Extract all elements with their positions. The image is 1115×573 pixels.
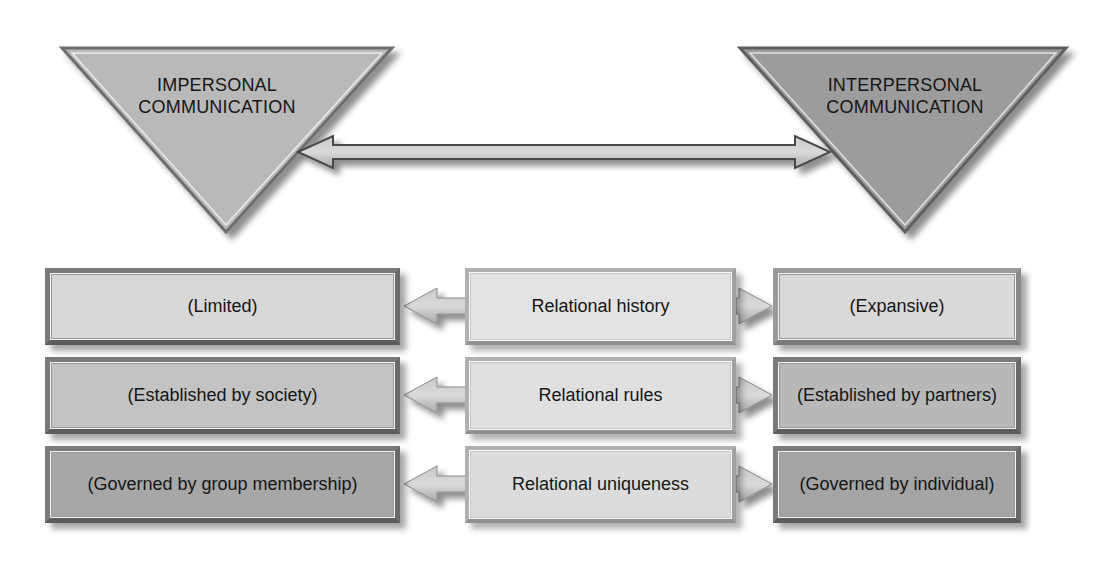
row-2-dimension-box: Relational rules: [465, 357, 736, 434]
row-3-interpersonal-box: (Governed by individual): [773, 446, 1021, 523]
impersonal-label-line2: COMMUNICATION: [112, 96, 322, 118]
row-1-interpersonal-text: (Expansive): [849, 296, 944, 317]
arrow-right-icon: [736, 377, 772, 413]
row-2-interpersonal-text: (Established by partners): [797, 385, 997, 406]
row-2-impersonal-box: (Established by society): [45, 357, 400, 434]
continuum-double-arrow-icon: [298, 136, 830, 168]
row-3-impersonal-box: (Governed by group membership): [45, 446, 400, 523]
row-3-interpersonal-text: (Governed by individual): [799, 474, 994, 495]
arrow-left-icon: [404, 377, 466, 413]
row-2-dimension-text: Relational rules: [538, 385, 662, 406]
row-1-dimension-text: Relational history: [531, 296, 669, 317]
impersonal-label-line1: IMPERSONAL: [112, 74, 322, 96]
arrow-right-icon: [736, 466, 772, 502]
arrow-left-icon: [404, 288, 466, 324]
row-1-impersonal-text: (Limited): [187, 296, 257, 317]
row-2-impersonal-text: (Established by society): [127, 385, 317, 406]
row-2-interpersonal-box: (Established by partners): [773, 357, 1021, 434]
row-1-dimension-box: Relational history: [465, 268, 736, 345]
row-3-dimension-text: Relational uniqueness: [512, 474, 689, 495]
row-3-dimension-box: Relational uniqueness: [465, 446, 736, 523]
interpersonal-label: INTERPERSONAL COMMUNICATION: [790, 74, 1020, 118]
impersonal-label: IMPERSONAL COMMUNICATION: [112, 74, 322, 118]
arrow-right-icon: [736, 288, 772, 324]
interpersonal-label-line1: INTERPERSONAL: [790, 74, 1020, 96]
arrow-left-icon: [404, 466, 466, 502]
row-1-interpersonal-box: (Expansive): [773, 268, 1021, 345]
row-3-impersonal-text: (Governed by group membership): [87, 474, 357, 495]
row-1-impersonal-box: (Limited): [45, 268, 400, 345]
interpersonal-label-line2: COMMUNICATION: [790, 96, 1020, 118]
